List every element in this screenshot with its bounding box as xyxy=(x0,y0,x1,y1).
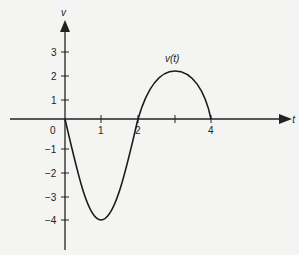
x-tick-4: 4 xyxy=(208,125,214,136)
v-axis-arrow-icon xyxy=(60,20,70,32)
t-axis-label: t xyxy=(292,114,296,125)
v-axis-label: v xyxy=(61,7,67,18)
v-curve xyxy=(65,71,211,220)
curve-label: v(t) xyxy=(165,53,179,64)
y-tick-3: 3 xyxy=(51,47,57,58)
y-tick-m1: −1 xyxy=(45,144,57,155)
origin-label: 0 xyxy=(50,125,56,136)
y-tick-m2: −2 xyxy=(45,168,57,179)
y-tick-1: 1 xyxy=(51,95,57,106)
t-axis-arrow-icon xyxy=(279,114,292,124)
velocity-graph: v t v(t) 0 1 2 4 3 2 1 −1 −2 −3 −4 xyxy=(0,0,299,255)
y-tick-m4: −4 xyxy=(45,215,57,226)
x-tick-2: 2 xyxy=(135,125,141,136)
y-tick-2: 2 xyxy=(51,71,57,82)
x-tick-1: 1 xyxy=(98,125,104,136)
y-tick-m3: −3 xyxy=(45,192,57,203)
